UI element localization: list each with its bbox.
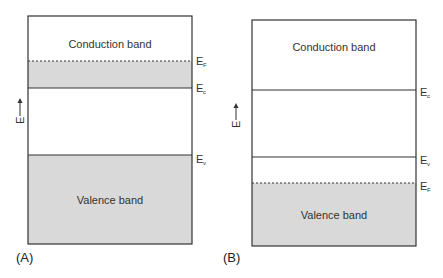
panel-b-conduction-label: Conduction band: [292, 41, 375, 53]
panel-a-ec-sub: c: [203, 89, 206, 95]
panel-a-ev-sub: v: [203, 160, 206, 166]
panel-a-valence-label: Valence band: [77, 194, 143, 206]
panel-b-ef-sub: F: [427, 187, 431, 193]
panel-a-label: (A): [16, 250, 33, 265]
panel-a-ef-sub: F: [203, 62, 207, 68]
panel-a-fermi-fill: [28, 61, 192, 88]
panel-b-label: (B): [223, 250, 240, 265]
panel-b-energy-axis: E: [230, 103, 242, 128]
panel-a-conduction-label: Conduction band: [68, 38, 151, 50]
panel-a-energy-axis: E: [14, 98, 26, 124]
arrow-up-icon: [18, 98, 23, 103]
arrow-up-icon: [234, 103, 239, 108]
panel-b-ev-sub: v: [427, 161, 430, 167]
panel-b: Conduction band Valence band E c E v E F…: [223, 20, 431, 265]
band-diagram: Conduction band Valence band E F E c E v…: [0, 0, 443, 278]
panel-b-valence-label: Valence band: [301, 209, 367, 221]
panel-b-axis-label: E: [230, 121, 242, 128]
panel-a-axis-label: E: [14, 117, 26, 124]
panel-a: Conduction band Valence band E F E c E v…: [14, 16, 207, 265]
panel-b-ec-sub: c: [427, 93, 430, 99]
